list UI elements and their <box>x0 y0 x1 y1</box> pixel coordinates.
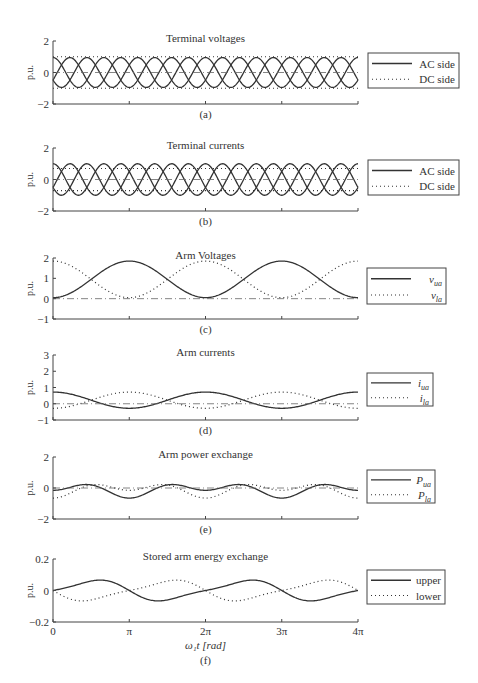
legend: iuaila <box>367 373 433 407</box>
x-tick-label: 2π <box>200 625 212 637</box>
y-tick-label: 3 <box>44 349 50 361</box>
subplot-c: Arm Voltages210−1p.u.(c)vuavla <box>24 249 446 336</box>
subplot-title: Arm power exchange <box>158 448 253 460</box>
subplot-title: Stored arm energy exchange <box>143 550 268 562</box>
x-axis-label: ω₁t [rad] <box>185 639 226 651</box>
y-tick-label: 2 <box>44 451 50 463</box>
y-tick-label: 1 <box>44 272 50 284</box>
y-tick-label: 2 <box>44 365 50 377</box>
y-tick-label: −1 <box>37 313 49 325</box>
y-tick-label: 0 <box>44 398 50 410</box>
subplot-f: Stored arm energy exchange0π2π3π4π0.20−0… <box>24 550 445 667</box>
subplot-label: (d) <box>199 424 212 437</box>
y-tick-label: 0 <box>44 174 50 186</box>
legend-label: DC side <box>419 73 455 85</box>
subplot-title: Arm Voltages <box>175 249 235 261</box>
legend-label: AC side <box>419 165 455 177</box>
series-i-ua <box>53 392 358 408</box>
legend: upperlower <box>367 570 445 604</box>
y-tick-label: 2 <box>44 252 50 264</box>
y-tick-label: 0.2 <box>35 553 49 565</box>
y-tick-label: −1 <box>37 414 49 426</box>
legend: AC sideDC side <box>368 160 459 195</box>
legend-label: lower <box>416 590 441 602</box>
subplot-label: (e) <box>199 523 212 536</box>
series-P-ua <box>53 485 358 499</box>
y-tick-label: 0 <box>44 293 50 305</box>
y-axis-label: p.u. <box>24 281 35 296</box>
subplot-title: Terminal voltages <box>166 32 245 44</box>
y-tick-label: 0 <box>44 67 50 79</box>
subplot-title: Arm currents <box>176 346 234 358</box>
y-axis-label: p.u. <box>24 65 35 80</box>
legend-label: DC side <box>419 180 455 192</box>
series-v-ua <box>53 261 358 298</box>
subplot-title: Terminal currents <box>167 139 245 151</box>
y-tick-label: −2 <box>37 205 49 217</box>
subplot-label: (f) <box>200 654 211 667</box>
y-tick-label: 2 <box>44 142 50 154</box>
y-tick-label: −2 <box>37 513 49 525</box>
legend: vuavla <box>367 268 446 304</box>
y-axis-label: p.u. <box>24 380 35 395</box>
series-i-la <box>53 392 358 408</box>
legend: PuaPla <box>367 470 435 504</box>
legend: AC sideDC side <box>368 53 459 88</box>
subplot-label: (c) <box>199 323 212 336</box>
y-axis-label: p.u. <box>24 583 35 598</box>
legend-label: AC side <box>419 58 455 70</box>
subplot-b: Terminal currents20−2p.u.(b)AC sideDC si… <box>24 139 459 228</box>
subplot-d: Arm currents3210−1p.u.(d)iuaila <box>24 346 433 437</box>
y-tick-label: −2 <box>37 98 49 110</box>
series-v-la <box>53 261 358 298</box>
legend-label: upper <box>416 574 441 586</box>
y-tick-label: 0 <box>44 585 50 597</box>
y-tick-label: 1 <box>44 382 50 394</box>
subplot-e: Arm power exchange20−2p.u.(e)PuaPla <box>24 448 435 536</box>
y-tick-label: 2 <box>44 35 50 47</box>
subplot-label: (a) <box>199 108 212 121</box>
y-axis-label: p.u. <box>24 172 35 187</box>
figure: Terminal voltages20−2p.u.(a)AC sideDC si… <box>0 0 478 683</box>
x-tick-label: 3π <box>276 625 288 637</box>
x-tick-label: 4π <box>352 625 364 637</box>
x-tick-label: π <box>126 625 132 637</box>
y-tick-label: −0.2 <box>29 616 49 628</box>
y-axis-label: p.u. <box>24 481 35 496</box>
x-tick-label: 0 <box>50 625 56 637</box>
y-tick-label: 0 <box>44 482 50 494</box>
subplot-a: Terminal voltages20−2p.u.(a)AC sideDC si… <box>24 32 459 121</box>
subplot-label: (b) <box>199 215 212 228</box>
